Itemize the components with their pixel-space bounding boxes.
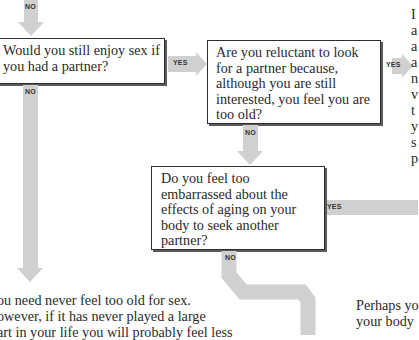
answer-bottom-left-line-2: owever, if it has never played a large xyxy=(0,308,233,324)
q3-no-label: NO xyxy=(225,254,236,261)
answer-bottom-left-line-3: art in your life you will probably feel … xyxy=(0,324,233,340)
answer-bottom-right-line-2: your body xyxy=(356,313,419,329)
answer-bottom-left: ou need never feel too old for sex. owev… xyxy=(0,292,233,340)
answer-bottom-right-line-1: Perhaps yo xyxy=(356,297,419,313)
answer-bottom-right: Perhaps yo your body xyxy=(356,297,419,329)
answer-bottom-left-line-1: ou need never feel too old for sex. xyxy=(0,292,233,308)
